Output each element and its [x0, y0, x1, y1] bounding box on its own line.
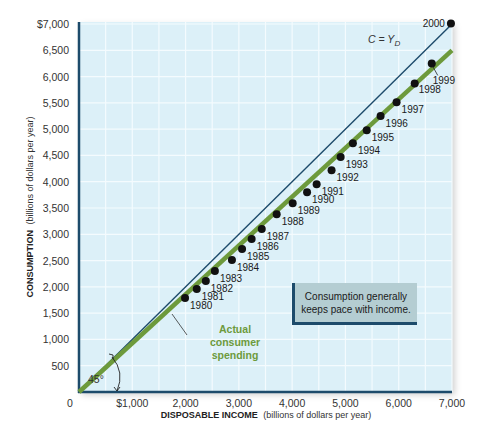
data-point — [447, 19, 455, 27]
data-point — [181, 294, 189, 302]
x-tick-label: 2,000 — [172, 397, 198, 409]
year-label: 1991 — [322, 186, 345, 197]
x-axis-label: DISPOSABLE INCOME (billions of dollars p… — [161, 410, 372, 420]
year-label: 1999 — [433, 75, 456, 86]
year-label: 1989 — [298, 205, 321, 216]
y-tick-label: 5,000 — [43, 123, 69, 135]
trend-line-label: Actual consumer spending — [200, 323, 270, 362]
data-point — [411, 79, 419, 87]
y-tick-label: 2,500 — [43, 255, 69, 267]
y-tick-label: 4,500 — [43, 149, 69, 161]
data-point — [328, 166, 336, 174]
data-point — [228, 256, 236, 264]
y-tick-label: 6,500 — [43, 44, 69, 56]
label-line-2: consumer — [200, 336, 270, 349]
year-label: 1983 — [220, 273, 243, 284]
year-label: 1993 — [346, 159, 369, 170]
data-point — [238, 245, 246, 253]
x-tick-label: 0 — [67, 397, 73, 409]
y-tick-label: 1,000 — [43, 333, 69, 345]
x-axis-ticks: 0$1,0002,0003,0004,0005,0006,0007,000 — [67, 397, 465, 409]
data-point — [303, 188, 311, 196]
data-point — [273, 210, 281, 218]
data-point — [202, 277, 210, 285]
consumption-income-chart: 5001,0001,5002,0002,5003,0003,5004,0004,… — [0, 0, 484, 426]
callout-note: Consumption generally keeps pace with in… — [292, 283, 417, 325]
y-tick-label: 6,000 — [43, 71, 69, 83]
y-tick-label: 5,500 — [43, 97, 69, 109]
year-label: 1986 — [257, 241, 280, 252]
x-tick-label: 6,000 — [386, 397, 412, 409]
year-label: 1988 — [282, 216, 305, 227]
y-tick-label: 4,000 — [43, 176, 69, 188]
year-label: 1994 — [358, 145, 381, 156]
data-point — [428, 59, 436, 67]
x-tick-label: 4,000 — [279, 397, 305, 409]
year-label: 1995 — [372, 132, 395, 143]
svg-text:CONSUMPTION (billions of dolla: CONSUMPTION (billions of dollars per yea… — [25, 116, 35, 297]
x-tick-label: $1,000 — [116, 397, 148, 409]
data-point — [193, 285, 201, 293]
label-line-1: Actual — [200, 323, 270, 336]
data-point — [211, 267, 219, 275]
svg-text:DISPOSABLE INCOME (billions of: DISPOSABLE INCOME (billions of dollars p… — [161, 410, 372, 420]
y-tick-label: 500 — [51, 360, 69, 372]
year-label: 1985 — [247, 251, 270, 262]
y-tick-label: 1,500 — [43, 307, 69, 319]
y-axis-label: CONSUMPTION (billions of dollars per yea… — [25, 116, 35, 297]
data-point — [248, 235, 256, 243]
label-line-3: spending — [200, 349, 270, 362]
data-point — [289, 199, 297, 207]
y-axis-ticks: 5001,0001,5002,0002,5003,0003,5004,0004,… — [37, 18, 69, 372]
y-tick-label: $7,000 — [37, 18, 69, 30]
data-point — [337, 153, 345, 161]
angle-label: 45° — [88, 373, 104, 385]
note-line-1: Consumption generally — [301, 290, 411, 303]
data-point — [393, 98, 401, 106]
year-label: 1997 — [402, 104, 425, 115]
data-point — [363, 126, 371, 134]
year-label: 1992 — [337, 172, 360, 183]
x-tick-label: 7,000 — [439, 397, 465, 409]
year-label: 1982 — [211, 283, 234, 294]
y-tick-label: 3,000 — [43, 228, 69, 240]
year-label: 1984 — [237, 262, 260, 273]
data-point — [377, 112, 385, 120]
x-tick-label: 5,000 — [332, 397, 358, 409]
y-tick-label: 2,000 — [43, 281, 69, 293]
year-label: 1987 — [267, 231, 290, 242]
data-point — [313, 180, 321, 188]
x-tick-label: 3,000 — [226, 397, 252, 409]
note-line-2: keeps pace with income. — [301, 303, 411, 316]
year-label: 2000 — [423, 18, 446, 29]
data-point — [349, 139, 357, 147]
y-tick-label: 3,500 — [43, 202, 69, 214]
data-point — [258, 225, 266, 233]
year-label: 1996 — [386, 118, 409, 129]
